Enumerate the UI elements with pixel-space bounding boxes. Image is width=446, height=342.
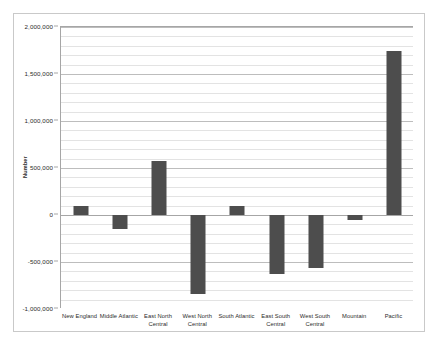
bar-slot bbox=[61, 27, 100, 308]
y-tick-label: -1,000,000 bbox=[22, 305, 53, 312]
bar[interactable] bbox=[308, 215, 323, 268]
x-tick-label: Middle Atlantic bbox=[99, 313, 138, 321]
y-tick-mark bbox=[54, 73, 58, 74]
bar-slot bbox=[336, 27, 375, 308]
y-tick-label: 1,500,000 bbox=[25, 70, 53, 77]
x-tick-label: East North Central bbox=[138, 313, 177, 328]
bar-slot bbox=[296, 27, 335, 308]
y-tick-mark bbox=[54, 167, 58, 168]
y-tick-label: 2,000,000 bbox=[25, 23, 53, 30]
bar[interactable] bbox=[348, 215, 363, 220]
y-tick-label: -500,000 bbox=[28, 258, 53, 265]
bar-slot bbox=[139, 27, 178, 308]
bar[interactable] bbox=[112, 215, 127, 229]
bar[interactable] bbox=[269, 215, 284, 274]
bar-slot bbox=[100, 27, 139, 308]
bar[interactable] bbox=[73, 206, 88, 215]
bar-slot bbox=[218, 27, 257, 308]
bar-slot bbox=[257, 27, 296, 308]
bar-series bbox=[61, 27, 413, 308]
y-tick-label: 1,000,000 bbox=[25, 117, 53, 124]
plot-area bbox=[60, 26, 413, 308]
y-tick-label: 0 bbox=[49, 211, 53, 218]
bar-slot bbox=[375, 27, 413, 308]
x-tick-label: West North Central bbox=[178, 313, 217, 328]
x-tick-label: South Atlantic bbox=[217, 313, 256, 321]
bar[interactable] bbox=[191, 215, 206, 294]
bar-slot bbox=[179, 27, 218, 308]
x-tick-label: West South Central bbox=[295, 313, 334, 328]
y-tick-mark bbox=[54, 214, 58, 215]
x-tick-label: New England bbox=[60, 313, 99, 321]
bar[interactable] bbox=[152, 161, 167, 215]
y-tick-mark bbox=[54, 26, 58, 27]
bar[interactable] bbox=[387, 51, 402, 216]
bar[interactable] bbox=[230, 206, 245, 215]
x-tick-label: East South Central bbox=[256, 313, 295, 328]
x-axis-tick-labels: New EnglandMiddle AtlanticEast North Cen… bbox=[60, 313, 413, 339]
chart-figure: Number -1,000,000-500,0000500,0001,000,0… bbox=[13, 13, 425, 332]
y-tick-mark bbox=[54, 261, 58, 262]
y-axis-tick-labels: -1,000,000-500,0000500,0001,000,0001,500… bbox=[14, 26, 58, 308]
y-tick-label: 500,000 bbox=[30, 164, 53, 171]
x-tick-label: Pacific bbox=[374, 313, 413, 321]
y-tick-mark bbox=[54, 120, 58, 121]
x-tick-label: Mountain bbox=[335, 313, 374, 321]
plot-wrapper: Number -1,000,000-500,0000500,0001,000,0… bbox=[14, 14, 424, 331]
y-tick-mark bbox=[54, 308, 58, 309]
